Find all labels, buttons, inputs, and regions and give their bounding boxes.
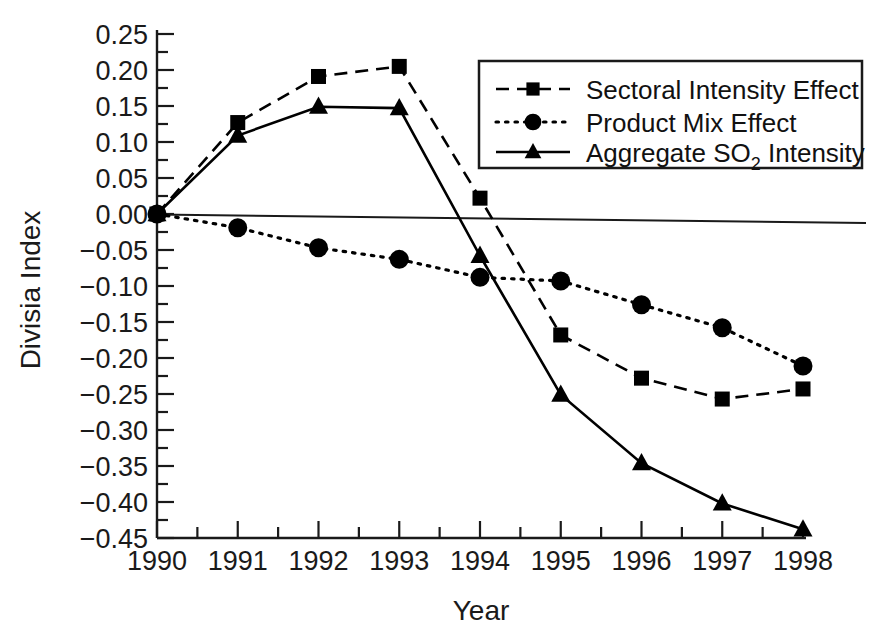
legend-label-tail: Intensity (761, 138, 865, 168)
legend-label: Product Mix Effect (586, 108, 797, 138)
circle-marker (471, 268, 490, 287)
y-tick-label: 0.00 (95, 200, 148, 230)
y-tick-label: −0.15 (80, 308, 148, 338)
square-marker (715, 392, 730, 407)
chart-svg: 0.250.200.150.100.050.00−0.05−0.10−0.15−… (0, 0, 877, 635)
legend-label: Sectoral Intensity Effect (586, 75, 859, 105)
square-marker (796, 381, 811, 396)
legend: Sectoral Intensity EffectProduct Mix Eff… (479, 61, 865, 174)
x-tick-label: 1995 (531, 546, 591, 576)
x-tick-label: 1993 (369, 546, 429, 576)
circle-marker (794, 356, 813, 375)
legend-label-subscript: 2 (751, 154, 761, 174)
square-marker (634, 371, 649, 386)
y-tick-label: 0.15 (95, 92, 148, 122)
square-marker (473, 191, 488, 206)
y-tick-label: 0.05 (95, 164, 148, 194)
x-tick-label: 1991 (208, 546, 268, 576)
legend-square-marker (526, 82, 539, 95)
square-marker (553, 327, 568, 342)
x-tick-label: 1992 (288, 546, 348, 576)
x-axis-title: Year (453, 595, 510, 626)
y-tick-label: −0.40 (80, 488, 148, 518)
y-axis-title: Divisia Index (15, 211, 46, 370)
x-tick-label: 1990 (127, 546, 187, 576)
y-tick-label: 0.25 (95, 20, 148, 50)
x-tick-label: 1994 (450, 546, 510, 576)
square-marker (392, 59, 407, 74)
square-marker (311, 69, 326, 84)
y-tick-label: −0.20 (80, 344, 148, 374)
circle-marker (390, 250, 409, 269)
circle-marker (632, 295, 651, 314)
circle-marker (228, 218, 247, 237)
y-tick-label: 0.20 (95, 56, 148, 86)
y-tick-label: −0.25 (80, 380, 148, 410)
circle-marker (309, 238, 328, 257)
x-tick-label: 1998 (773, 546, 833, 576)
y-tick-label: −0.05 (80, 236, 148, 266)
y-tick-label: 0.10 (95, 128, 148, 158)
y-tick-label: −0.10 (80, 272, 148, 302)
x-tick-label: 1996 (611, 546, 671, 576)
legend-circle-marker (525, 114, 542, 131)
y-tick-label: −0.35 (80, 452, 148, 482)
x-tick-label: 1997 (692, 546, 752, 576)
circle-marker (713, 318, 732, 337)
divisia-index-line-chart: 0.250.200.150.100.050.00−0.05−0.10−0.15−… (0, 0, 877, 635)
x-axis-tick-labels: 199019911992199319941995199619971998 (127, 546, 833, 576)
y-tick-label: −0.30 (80, 416, 148, 446)
circle-marker (551, 271, 570, 290)
